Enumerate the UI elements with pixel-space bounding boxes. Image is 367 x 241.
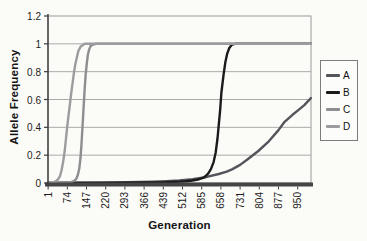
x-tick-label-1: 1	[43, 192, 54, 198]
y-tick-label-0.6: 0.6	[27, 95, 41, 106]
x-tick-label-585: 585	[196, 192, 207, 209]
x-axis-title: Generation	[48, 219, 311, 231]
legend-line-sample-A	[326, 74, 340, 77]
legend-line-sample-B	[326, 91, 340, 94]
plot-area: 00.20.40.60.811.217414722029336643951258…	[0, 0, 367, 241]
legend-label-B: B	[343, 87, 350, 98]
x-tick-label-804: 804	[254, 192, 265, 209]
x-tick-label-293: 293	[119, 192, 130, 209]
legend-label-C: C	[343, 104, 350, 115]
allele-frequency-chart: 00.20.40.60.811.217414722029336643951258…	[0, 0, 367, 241]
legend: ABCD	[320, 60, 358, 141]
series-line-A	[48, 98, 311, 183]
y-tick-label-0.8: 0.8	[27, 67, 41, 78]
legend-entry-A: A	[326, 67, 357, 84]
legend-label-A: A	[343, 70, 350, 81]
legend-entry-D: D	[326, 118, 357, 135]
x-tick-label-731: 731	[235, 192, 246, 209]
series-line-C	[48, 44, 311, 183]
x-tick-label-220: 220	[100, 192, 111, 209]
legend-entry-B: B	[326, 84, 357, 101]
legend-line-sample-C	[326, 108, 340, 111]
x-tick-label-366: 366	[139, 192, 150, 209]
y-tick-label-0: 0	[35, 178, 41, 189]
x-tick-label-439: 439	[158, 192, 169, 209]
x-tick-label-950: 950	[292, 192, 303, 209]
y-axis-title: Allele Frequency	[8, 17, 20, 177]
x-tick-label-74: 74	[62, 192, 73, 204]
x-tick-label-877: 877	[273, 192, 284, 209]
legend-entry-C: C	[326, 101, 357, 118]
legend-label-D: D	[343, 121, 350, 132]
y-tick-label-0.2: 0.2	[27, 150, 41, 161]
x-tick-label-512: 512	[177, 192, 188, 209]
y-tick-label-1: 1	[35, 39, 41, 50]
x-tick-label-658: 658	[215, 192, 226, 209]
legend-line-sample-D	[326, 125, 340, 128]
y-tick-label-0.4: 0.4	[27, 122, 41, 133]
y-tick-label-1.2: 1.2	[27, 11, 41, 22]
x-tick-label-147: 147	[81, 192, 92, 209]
